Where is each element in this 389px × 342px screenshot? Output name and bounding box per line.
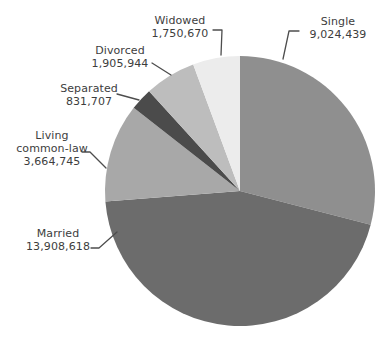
slice-name-living-common-law: Living common-law: [12, 129, 92, 155]
label-single: Single 9,024,439: [300, 15, 376, 41]
slice-value-single: 9,024,439: [300, 28, 376, 41]
slice-name-widowed: Widowed: [140, 14, 220, 27]
slice-name-separated: Separated: [49, 82, 129, 95]
label-divorced: Divorced 1,905,944: [80, 44, 160, 70]
slice-value-married: 13,908,618: [18, 240, 98, 253]
pie-slices: [105, 56, 375, 326]
leader-line-single: [283, 31, 299, 59]
pie-chart-svg: [0, 0, 389, 342]
slice-value-living-common-law: 3,664,745: [12, 155, 92, 168]
label-married: Married 13,908,618: [18, 227, 98, 253]
slice-name-divorced: Divorced: [80, 44, 160, 57]
slice-value-separated: 831,707: [49, 95, 129, 108]
slice-name-single: Single: [300, 15, 376, 28]
label-separated: Separated 831,707: [49, 82, 129, 108]
label-living-common-law: Living common-law 3,664,745: [12, 129, 92, 168]
label-widowed: Widowed 1,750,670: [140, 14, 220, 40]
pie-chart-figure: Single 9,024,439 Widowed 1,750,670 Divor…: [0, 0, 389, 342]
slice-name-married: Married: [18, 227, 98, 240]
slice-value-widowed: 1,750,670: [140, 27, 220, 40]
slice-value-divorced: 1,905,944: [80, 57, 160, 70]
